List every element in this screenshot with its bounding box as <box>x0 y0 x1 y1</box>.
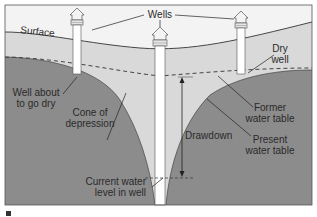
label-well-dry-1: Well about <box>12 87 59 98</box>
label-drawdown: Drawdown <box>185 130 232 141</box>
label-current-1: Current water <box>85 176 146 187</box>
corner-mark <box>6 211 11 216</box>
label-cone-1: Cone of <box>72 107 107 118</box>
groundwater-diagram: Surface Wells Dry well Well about to go … <box>0 0 317 217</box>
label-dry-well-1: Dry <box>272 43 288 54</box>
label-well-dry-2: to go dry <box>17 98 56 109</box>
label-cone-2: depression <box>66 118 115 129</box>
label-former-2: water table <box>245 113 295 124</box>
label-former-1: Former <box>254 102 287 113</box>
label-dry-well-2: well <box>270 54 288 65</box>
label-current-2: level in well <box>95 187 146 198</box>
label-present-2: water table <box>245 145 295 156</box>
label-present-1: Present <box>253 134 288 145</box>
label-wells: Wells <box>148 9 172 20</box>
